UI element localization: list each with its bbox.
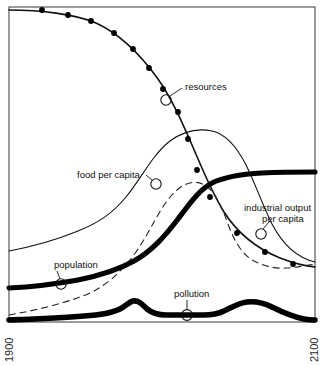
world3-limits-to-growth-chart: resources food per capita industrial out… xyxy=(0,0,331,366)
label-food-per-capita: food per capita xyxy=(77,169,141,180)
series-resources-line xyxy=(9,10,315,267)
series-resources-markers xyxy=(39,7,296,267)
annotation-population: population xyxy=(54,259,98,289)
x-axis-end-tick-label: 2100 xyxy=(308,338,320,362)
label-pollution: pollution xyxy=(174,288,209,299)
industrial-output-callout-circle xyxy=(256,229,266,239)
food-per-capita-callout-circle xyxy=(151,179,161,189)
label-industrial-output-line2: per capita xyxy=(262,213,304,224)
annotation-resources: resources xyxy=(161,81,227,105)
resources-callout-circle xyxy=(161,95,171,105)
resources-leader-line xyxy=(170,88,182,96)
series-population-line xyxy=(9,172,315,288)
series-pollution-line xyxy=(9,301,315,320)
plot-frame xyxy=(9,7,315,322)
population-leader-line xyxy=(57,271,60,279)
chart-canvas: resources food per capita industrial out… xyxy=(0,0,331,366)
food-per-capita-leader-line xyxy=(146,175,152,180)
x-axis-start-tick-label: 1900 xyxy=(3,338,15,362)
series-food-per-capita-line xyxy=(9,130,315,262)
annotation-food-per-capita: food per capita xyxy=(77,169,161,189)
pollution-callout-circle xyxy=(182,310,193,321)
label-population: population xyxy=(54,259,98,270)
population-callout-circle xyxy=(56,279,66,289)
label-resources: resources xyxy=(185,81,227,92)
label-industrial-output-line1: industrial output xyxy=(244,202,311,213)
